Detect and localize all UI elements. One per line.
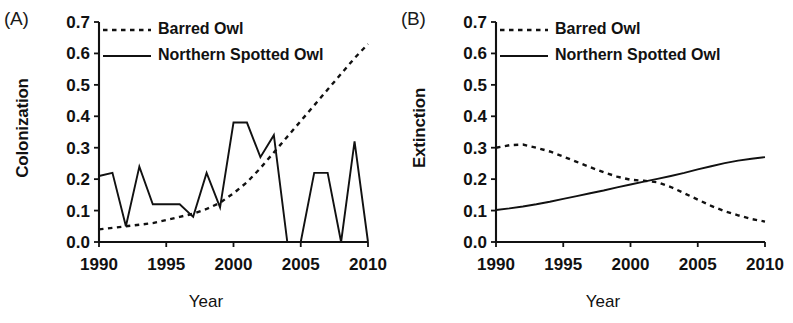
legend-label-northern-spotted-owl: Northern Spotted Owl — [158, 46, 323, 63]
panel-a-colonization: (A) Colonization Year 0.00.10.20.30.40.5… — [0, 0, 396, 323]
y-tick-label: 0.2 — [463, 170, 487, 189]
y-tick-label: 0.2 — [66, 170, 90, 189]
series-northern-spotted-owl — [496, 157, 765, 210]
series-barred-owl — [496, 145, 765, 222]
panel-a-plot: 0.00.10.20.30.40.50.60.71990199520002005… — [0, 0, 396, 323]
y-tick-label: 0.1 — [66, 202, 90, 221]
y-tick-label: 0.5 — [66, 76, 90, 95]
panel-b-plot: 0.00.10.20.30.40.50.60.71990199520002005… — [397, 0, 793, 323]
y-tick-label: 0.0 — [463, 233, 487, 252]
x-tick-label: 1995 — [544, 255, 582, 274]
y-tick-label: 0.1 — [463, 202, 487, 221]
x-tick-label: 2000 — [612, 255, 650, 274]
y-tick-label: 0.6 — [463, 44, 487, 63]
x-tick-label: 2005 — [282, 255, 320, 274]
owl-demography-figure: (A) Colonization Year 0.00.10.20.30.40.5… — [0, 0, 793, 323]
legend-label-barred-owl: Barred Owl — [158, 20, 243, 37]
legend-label-northern-spotted-owl: Northern Spotted Owl — [555, 46, 720, 63]
series-barred-owl — [99, 44, 368, 229]
x-tick-label: 1995 — [147, 255, 185, 274]
x-tick-label: 2010 — [746, 255, 784, 274]
y-tick-label: 0.3 — [66, 139, 90, 158]
x-tick-label: 1990 — [477, 255, 515, 274]
y-tick-label: 0.0 — [66, 233, 90, 252]
y-tick-label: 0.3 — [463, 139, 487, 158]
y-tick-label: 0.5 — [463, 76, 487, 95]
x-tick-label: 2005 — [679, 255, 717, 274]
legend-label-barred-owl: Barred Owl — [555, 20, 640, 37]
series-northern-spotted-owl — [99, 123, 368, 242]
x-tick-label: 2010 — [349, 255, 387, 274]
panel-b-extinction: (B) Extinction Year 0.00.10.20.30.40.50.… — [397, 0, 793, 323]
y-tick-label: 0.6 — [66, 44, 90, 63]
y-tick-label: 0.4 — [66, 107, 90, 126]
y-tick-label: 0.7 — [463, 13, 487, 32]
y-tick-label: 0.4 — [463, 107, 487, 126]
x-tick-label: 2000 — [215, 255, 253, 274]
x-tick-label: 1990 — [80, 255, 118, 274]
y-tick-label: 0.7 — [66, 13, 90, 32]
